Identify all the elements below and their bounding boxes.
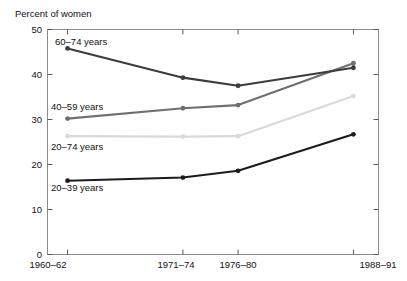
data-point <box>236 134 241 139</box>
data-point <box>181 134 186 139</box>
y-axis-title: Percent of women <box>15 8 92 19</box>
data-point <box>351 132 356 137</box>
data-point <box>65 134 70 139</box>
x-tick-label-2: 1976–80 <box>220 259 257 270</box>
data-point <box>236 83 241 88</box>
y-tick-label-40: 40 <box>31 69 42 80</box>
data-point <box>351 94 356 99</box>
series-label-20-39: 20–39 years <box>51 182 104 193</box>
data-point <box>351 61 356 66</box>
chart-container: Percent of women 50 40 30 20 10 0 1960–6… <box>0 0 407 281</box>
x-tick-label-0: 1960–62 <box>30 259 67 270</box>
y-tick-label-30: 30 <box>31 114 42 125</box>
y-tick-label-50: 50 <box>31 24 42 35</box>
data-point <box>236 103 241 108</box>
series-label-20-74: 20–74 years <box>51 141 104 152</box>
y-tick-label-10: 10 <box>31 204 42 215</box>
line-chart: Percent of women 50 40 30 20 10 0 1960–6… <box>0 0 407 281</box>
series-label-40-59: 40–59 years <box>51 101 104 112</box>
data-point <box>65 116 70 121</box>
data-point <box>181 106 186 111</box>
y-tick-label-20: 20 <box>31 159 42 170</box>
data-point <box>236 168 241 173</box>
data-point <box>351 65 356 70</box>
x-tick-label-1: 1971–74 <box>158 259 195 270</box>
data-point <box>181 175 186 180</box>
series-label-60-74: 60–74 years <box>55 36 108 47</box>
x-tick-label-3: 1988–91 <box>360 259 397 270</box>
data-point <box>181 75 186 80</box>
